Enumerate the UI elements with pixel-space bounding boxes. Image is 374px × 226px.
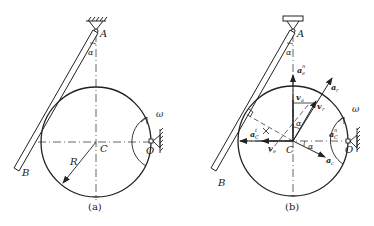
caption-a: (a)	[88, 201, 102, 212]
svg-text:n: n	[302, 63, 305, 69]
caption-b: (b)	[285, 201, 299, 212]
svg-text:C: C	[334, 134, 338, 140]
label-a-r: a r	[331, 82, 339, 93]
label-a-R: R	[69, 156, 78, 167]
svg-text:n: n	[334, 127, 337, 133]
svg-text:e: e	[302, 70, 305, 76]
label-a-alpha: α	[88, 48, 94, 57]
label-a-omega: ω	[156, 109, 164, 119]
arrow-a-r	[293, 78, 332, 141]
label-a-C-t: a C t	[250, 127, 259, 140]
svg-text:a: a	[301, 97, 304, 103]
label-b-omega: ω	[352, 104, 360, 114]
label-a-c: a c	[326, 155, 334, 166]
label-a-B: B	[21, 167, 29, 178]
label-a-C-n: a C n	[329, 127, 338, 140]
label-b-alpha-mid: α	[296, 119, 302, 128]
label-v-e: v e	[268, 143, 276, 154]
svg-text:e: e	[273, 148, 276, 154]
radius-arrow	[63, 142, 96, 183]
label-b-alpha-right: α	[308, 142, 314, 151]
figure-a: A α C R B O ω (a)	[14, 17, 164, 212]
label-b-C: C	[286, 144, 294, 155]
label-b-B: B	[217, 177, 225, 188]
svg-text:r: r	[336, 87, 339, 93]
label-a-A: A	[99, 28, 107, 39]
label-v-a: v a	[296, 92, 304, 103]
svg-text:C: C	[255, 134, 259, 140]
alpha-arc-b-right	[304, 141, 305, 146]
figure-b: A α α α C B O ω a e n a r v a v r v e a	[211, 16, 360, 212]
label-a-C: C	[100, 143, 108, 154]
label-b-alpha-top: α	[286, 48, 292, 57]
label-b-O: O	[345, 144, 353, 155]
cross-mark	[263, 128, 269, 134]
svg-text:c: c	[331, 160, 334, 166]
svg-text:r: r	[322, 106, 325, 112]
label-a-e-n: a e n	[297, 63, 305, 76]
mechanism-diagram: A α C R B O ω (a)	[0, 0, 374, 226]
svg-text:t: t	[255, 127, 258, 133]
label-v-r: v r	[317, 101, 325, 112]
label-b-A: A	[296, 28, 304, 39]
rod-ab-b	[211, 30, 295, 171]
label-a-O: O	[146, 145, 154, 156]
rod-ab-a	[14, 30, 98, 171]
